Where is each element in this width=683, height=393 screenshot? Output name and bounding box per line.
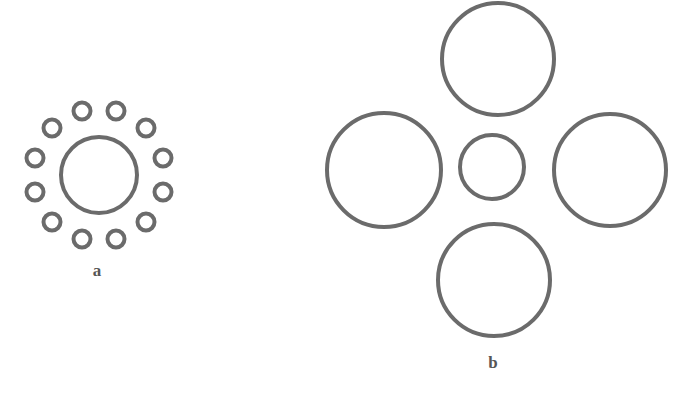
panel-a-label: a xyxy=(77,262,117,279)
panel-b-label: b xyxy=(473,354,513,371)
ebbinghaus-illusion-figure xyxy=(0,0,683,393)
figure-background xyxy=(0,0,683,393)
